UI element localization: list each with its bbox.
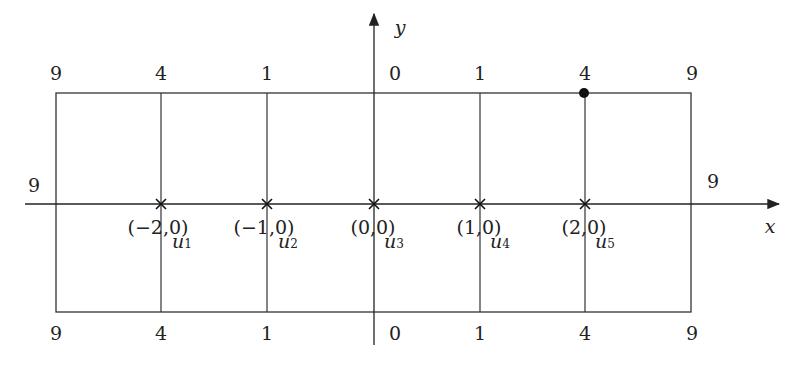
bottom-value: 0 (389, 322, 401, 344)
top-value: 1 (474, 62, 486, 84)
point-name: u2 (278, 230, 298, 252)
top-value: 1 (261, 62, 273, 84)
top-value: 4 (579, 62, 591, 84)
top-value: 4 (155, 62, 167, 84)
right-side-value: 9 (707, 170, 719, 192)
bottom-value: 9 (686, 322, 698, 344)
top-value: 9 (686, 62, 698, 84)
point-name: u4 (490, 230, 510, 252)
bottom-value: 1 (474, 322, 486, 344)
point-name: u3 (384, 230, 404, 252)
x-axis-label: x (765, 215, 776, 237)
top-value: 9 (50, 62, 62, 84)
highlight-dot (579, 88, 589, 98)
left-side-value: 9 (28, 174, 40, 196)
point-name: u5 (595, 230, 615, 252)
top-value: 0 (389, 62, 401, 84)
point-name: u1 (172, 230, 192, 252)
bottom-value: 9 (50, 322, 62, 344)
y-axis-label: y (395, 16, 406, 38)
grid-diagram (0, 0, 798, 366)
bottom-value: 1 (261, 322, 273, 344)
bottom-value: 4 (155, 322, 167, 344)
bottom-value: 4 (579, 322, 591, 344)
